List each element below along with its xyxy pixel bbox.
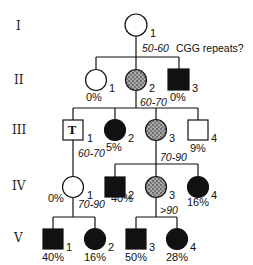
female-affected-symbol [188, 177, 209, 198]
individual-number: 3 [149, 241, 155, 253]
pedigree-chart: I II III IV V 1 [0, 0, 253, 265]
individual-II-3: 3 0% [168, 69, 198, 103]
individual-IV-3: 3 [146, 177, 176, 202]
individual-I-1: 1 [125, 14, 156, 39]
generation-label-I: I [16, 19, 21, 33]
individual-number: 4 [211, 132, 217, 144]
individual-number: 1 [66, 241, 72, 253]
percent-label: 16% [187, 196, 209, 208]
female-carrier-symbol [126, 70, 147, 91]
individual-V-4: 4 28% [166, 229, 196, 264]
percent-label: 28% [166, 251, 188, 263]
individual-number: 2 [128, 132, 134, 144]
individual-number: 2 [149, 82, 155, 94]
male-unaffected-symbol [188, 120, 208, 140]
percent-label: 9% [190, 142, 206, 154]
repeat-annotation-gen3-right: 70-90 [160, 151, 187, 163]
repeat-annotation-gen3-left: 60-70 [78, 147, 105, 159]
individual-III-1: T 1 [63, 120, 93, 144]
individual-number: 3 [169, 132, 175, 144]
individual-number: 3 [192, 82, 198, 94]
individual-III-3: 3 [146, 120, 176, 145]
female-unaffected-symbol [125, 14, 147, 36]
repeat-annotation-gen4-left: 70-90 [78, 198, 105, 210]
percent-label: 0% [170, 91, 186, 103]
repeat-annotation-gen1: 50-60 [142, 42, 169, 54]
transmitting-label: T [68, 124, 77, 137]
male-affected-symbol [126, 229, 146, 249]
percent-label: 0% [48, 192, 64, 204]
percent-label: 0% [86, 91, 102, 103]
male-affected-symbol [43, 229, 63, 249]
percent-label: 50% [125, 251, 147, 263]
female-unaffected-symbol [63, 177, 84, 198]
individual-number: 1 [87, 132, 93, 144]
repeat-annotation-gen4-right: >90 [160, 204, 178, 216]
female-carrier-symbol [146, 120, 167, 141]
individual-V-3: 3 50% [125, 229, 155, 263]
female-affected-symbol [167, 229, 188, 250]
individual-number: 2 [108, 241, 114, 253]
individual-III-2: 2 5% [105, 120, 135, 154]
individual-number: 1 [150, 27, 156, 39]
female-affected-symbol [85, 229, 106, 250]
individual-number: 4 [211, 189, 217, 201]
percent-label: 5% [106, 141, 122, 153]
individual-V-2: 2 16% [84, 229, 114, 264]
individual-V-1: 1 40% [42, 229, 72, 263]
individual-IV-2: 2 40% [105, 177, 134, 204]
individual-number: 3 [169, 189, 175, 201]
individual-II-1: 1 0% [86, 70, 116, 104]
individual-III-4: 4 9% [188, 120, 217, 154]
female-carrier-symbol [146, 177, 167, 198]
percent-label: 40% [111, 192, 133, 204]
female-unaffected-symbol [86, 70, 107, 91]
male-affected-symbol [168, 69, 189, 90]
individual-number: 4 [190, 241, 196, 253]
percent-label: 16% [84, 251, 106, 263]
generation-label-V: V [13, 231, 23, 245]
repeat-annotation-gen2: 60-70 [140, 96, 167, 108]
generation-label-II: II [14, 73, 24, 87]
generation-label-IV: IV [12, 179, 26, 193]
female-affected-symbol [105, 120, 126, 141]
percent-label: 40% [42, 251, 64, 263]
repeat-annotation-gen1-text: CGG repeats? [176, 42, 244, 54]
individual-II-2: 2 [126, 70, 156, 95]
generation-label-III: III [12, 123, 26, 137]
individual-IV-4: 4 16% [187, 177, 217, 209]
individual-number: 1 [109, 82, 115, 94]
